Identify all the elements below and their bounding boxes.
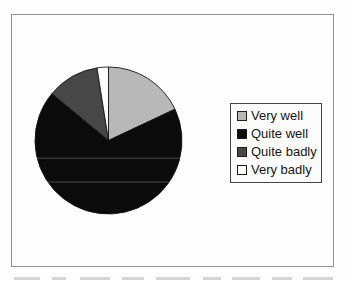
- legend-item-quite-well: Quite well: [237, 125, 321, 143]
- legend-label: Very well: [251, 107, 303, 125]
- legend-item-very-badly: Very badly: [237, 161, 321, 179]
- legend-item-quite-badly: Quite badly: [237, 143, 321, 161]
- cropped-caption-artifact: [0, 276, 351, 282]
- legend-item-very-well: Very well: [237, 107, 321, 125]
- legend-swatch-very-well: [237, 111, 247, 121]
- legend-swatch-quite-badly: [237, 147, 247, 157]
- legend-swatch-very-badly: [237, 165, 247, 175]
- scan-streak-artifact: [35, 181, 182, 182]
- scan-streak-artifact: [35, 158, 182, 159]
- legend-label: Very badly: [251, 161, 312, 179]
- legend-swatch-quite-well: [237, 129, 247, 139]
- legend-label: Quite badly: [251, 143, 317, 161]
- screenshot-root: Very well Quite well Quite badly Very ba…: [0, 0, 351, 282]
- legend-label: Quite well: [251, 125, 308, 143]
- chart-legend: Very well Quite well Quite badly Very ba…: [230, 103, 322, 183]
